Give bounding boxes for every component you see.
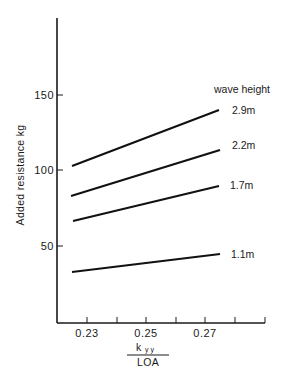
y-tick-label-100: 100 [34, 164, 54, 176]
x-tick-label-023: 0.23 [75, 327, 98, 339]
x-tick-label-025: 0.25 [134, 327, 157, 339]
series-line-1.7m [73, 186, 219, 221]
y-tick-label-150: 150 [34, 89, 54, 101]
y-tick-label-50: 50 [41, 240, 54, 252]
series-label-2.2m: 2.2m [232, 139, 256, 151]
legend-title: wave height [213, 83, 270, 95]
series-label-1.7m: 1.7m [230, 179, 254, 191]
x-ticks [87, 317, 265, 323]
x-axis-numerator: k [136, 341, 142, 353]
series-label-2.9m: 2.9m [232, 104, 256, 116]
y-ticks [57, 95, 63, 246]
series-line-1.1m [72, 254, 220, 272]
chart: 150 100 50 0.23 0.25 0.27 Added resistan… [0, 0, 281, 378]
x-tick-label-027: 0.27 [193, 327, 216, 339]
y-axis-title: Added resistance kg [14, 125, 26, 226]
series-label-1.1m: 1.1m [231, 248, 255, 260]
x-axis-denominator: LOA [137, 356, 159, 368]
x-axis-subscript: y y [145, 346, 154, 354]
